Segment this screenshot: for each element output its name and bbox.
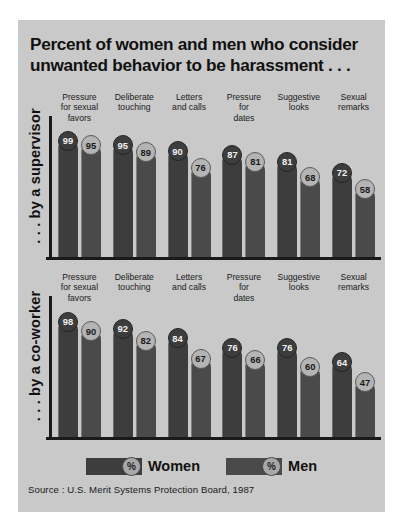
value-bubble-men: 68: [300, 167, 320, 187]
bar-wrap-women: 64: [332, 361, 352, 437]
value-bubble-men: 67: [191, 349, 211, 369]
legend-label-men: Men: [288, 458, 317, 474]
bar-group: 72 58: [326, 130, 381, 257]
bar-group: 76 60: [271, 310, 326, 437]
source-note: Source : U.S. Merit Systems Protection B…: [28, 484, 254, 495]
legend-item-men: % Men: [226, 458, 317, 475]
value-bubble-women: 99: [58, 131, 78, 151]
legend-swatch-women: %: [86, 458, 142, 475]
bar-wrap-women: 81: [277, 161, 297, 257]
panel-supervisor-axis-label: . . . by a supervisor: [22, 92, 48, 260]
category-header: Pressure for dates: [216, 272, 271, 310]
bar-men: 47: [355, 381, 375, 437]
bar-men: 67: [191, 358, 211, 438]
percent-bubble-icon: %: [122, 457, 141, 476]
value-bubble-men: 81: [245, 152, 265, 172]
bar-wrap-men: 81: [245, 161, 265, 257]
chart-title-line-1: Percent of women and men who consider: [30, 34, 376, 55]
panel-supervisor: . . . by a supervisor Pressure for sexua…: [18, 92, 385, 272]
bar-wrap-men: 95: [81, 144, 101, 257]
category-header: Suggestive looks: [271, 272, 326, 310]
value-bubble-women: 90: [168, 141, 188, 161]
value-bubble-women: 72: [332, 163, 352, 183]
percent-bubble-icon: %: [262, 457, 281, 476]
value-bubble-women: 84: [168, 328, 188, 348]
value-bubble-women: 76: [222, 338, 242, 358]
value-bubble-women: 92: [113, 319, 133, 339]
chart-title: Percent of women and men who consider un…: [30, 34, 376, 76]
bar-women: 87: [222, 154, 242, 257]
value-bubble-men: 76: [191, 158, 211, 178]
bar-women: 95: [113, 144, 133, 257]
category-header: Deliberate touching: [107, 92, 162, 130]
bar-group: 87 81: [216, 130, 271, 257]
bar-group: 99 95: [52, 130, 107, 257]
value-bubble-men: 90: [81, 321, 101, 341]
bar-men: 90: [81, 330, 101, 437]
bar-women: 84: [168, 337, 188, 437]
bar-men: 68: [300, 176, 320, 257]
value-bubble-men: 60: [300, 357, 320, 377]
bar-men: 82: [136, 340, 156, 437]
bar-women: 90: [168, 150, 188, 257]
bar-wrap-women: 90: [168, 150, 188, 257]
value-bubble-women: 95: [113, 135, 133, 155]
value-bubble-men: 82: [136, 331, 156, 351]
category-header: Letters and calls: [162, 272, 217, 310]
value-bubble-women: 98: [58, 312, 78, 332]
value-bubble-men: 95: [81, 135, 101, 155]
panel-coworker-axis-label: . . . by a co-worker: [22, 272, 48, 440]
bar-wrap-men: 68: [300, 176, 320, 257]
chart-title-line-2: unwanted behavior to be harassment . . .: [30, 55, 376, 76]
bar-wrap-men: 82: [136, 340, 156, 437]
legend-swatch-men: %: [226, 458, 282, 475]
bar-wrap-men: 67: [191, 358, 211, 438]
bar-men: 81: [245, 161, 265, 257]
bar-wrap-women: 92: [113, 328, 133, 437]
value-bubble-women: 64: [332, 352, 352, 372]
panel-coworker-category-headers: Pressure for sexual favors Deliberate to…: [52, 272, 381, 310]
bar-men: 60: [300, 366, 320, 437]
bar-men: 76: [191, 167, 211, 257]
bar-wrap-men: 90: [81, 330, 101, 437]
bar-women: 76: [222, 347, 242, 437]
bar-group: 64 47: [326, 310, 381, 437]
bar-group: 81 68: [271, 130, 326, 257]
bar-men: 89: [136, 151, 156, 257]
legend-label-women: Women: [148, 458, 200, 474]
value-bubble-men: 47: [355, 372, 375, 392]
chart-legend: % Women % Men: [18, 453, 385, 479]
bar-wrap-women: 72: [332, 172, 352, 258]
category-header: Pressure for sexual favors: [52, 272, 107, 310]
bar-wrap-women: 99: [58, 140, 78, 258]
value-bubble-men: 66: [245, 350, 265, 370]
panel-supervisor-bars: 99 95 95: [52, 130, 381, 257]
category-header: Deliberate touching: [107, 272, 162, 310]
bar-group: 90 76: [162, 130, 217, 257]
bar-wrap-men: 66: [245, 359, 265, 437]
category-header: Sexual remarks: [326, 272, 381, 310]
bar-men: 58: [355, 188, 375, 257]
bar-group: 98 90: [52, 310, 107, 437]
bar-group: 84 67: [162, 310, 217, 437]
value-bubble-men: 89: [136, 142, 156, 162]
bar-group: 95 89: [107, 130, 162, 257]
bar-men: 66: [245, 359, 265, 437]
bar-wrap-women: 76: [222, 347, 242, 437]
bar-wrap-men: 60: [300, 366, 320, 437]
bar-wrap-women: 95: [113, 144, 133, 257]
bar-women: 81: [277, 161, 297, 257]
category-header: Suggestive looks: [271, 92, 326, 130]
bar-wrap-women: 98: [58, 321, 78, 437]
category-header: Pressure for sexual favors: [52, 92, 107, 130]
panel-coworker: . . . by a co-worker Pressure for sexual…: [18, 272, 385, 452]
bar-wrap-women: 84: [168, 337, 188, 437]
bar-group: 92 82: [107, 310, 162, 437]
bar-wrap-men: 89: [136, 151, 156, 257]
bar-wrap-women: 87: [222, 154, 242, 257]
bar-men: 95: [81, 144, 101, 257]
panel-supervisor-plot: Pressure for sexual favors Deliberate to…: [52, 92, 381, 260]
category-header: Letters and calls: [162, 92, 217, 130]
value-bubble-women: 87: [222, 145, 242, 165]
bar-wrap-men: 58: [355, 188, 375, 257]
